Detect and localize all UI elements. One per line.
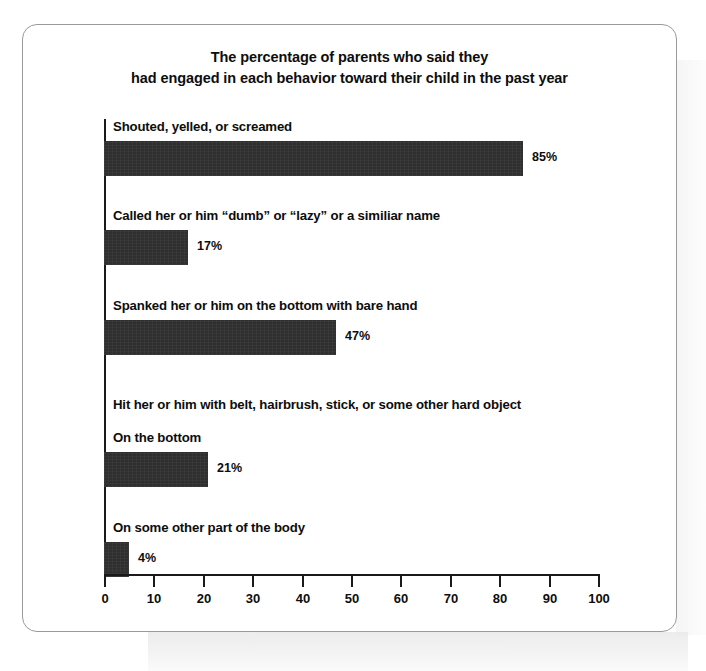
- bar-other-body-part[interactable]: [104, 542, 129, 577]
- bar-label-on-the-bottom: On the bottom: [113, 430, 201, 445]
- x-tick-20: [203, 574, 205, 587]
- bar-label-shouted: Shouted, yelled, or screamed: [113, 119, 292, 134]
- chart-title-line-2: had engaged in each behavior toward thei…: [23, 68, 676, 89]
- scan-shadow-bottom: [148, 632, 688, 671]
- x-tick-label-100: 100: [588, 591, 610, 606]
- x-tick-40: [302, 574, 304, 587]
- bar-value-spanked: 47%: [345, 329, 370, 343]
- bar-value-shouted: 85%: [532, 150, 557, 164]
- bar-value-called-names: 17%: [197, 239, 222, 253]
- chart-title: The percentage of parents who said they …: [23, 47, 676, 89]
- chart-card: The percentage of parents who said they …: [22, 24, 677, 632]
- bar-on-the-bottom[interactable]: [104, 452, 208, 487]
- bar-value-on-the-bottom: 21%: [217, 461, 242, 475]
- x-tick-label-10: 10: [147, 591, 161, 606]
- x-tick-label-60: 60: [394, 591, 408, 606]
- x-tick-50: [351, 574, 353, 587]
- x-tick-70: [450, 574, 452, 587]
- group-header-hit-hard-object: Hit her or him with belt, hairbrush, sti…: [113, 397, 521, 412]
- x-tick-0: [104, 574, 106, 587]
- bar-shouted[interactable]: [104, 141, 523, 176]
- x-tick-80: [499, 574, 501, 587]
- x-tick-label-20: 20: [197, 591, 211, 606]
- x-tick-label-30: 30: [246, 591, 260, 606]
- x-tick-100: [598, 574, 600, 587]
- bar-value-other-body-part: 4%: [138, 551, 156, 565]
- x-tick-label-80: 80: [493, 591, 507, 606]
- x-tick-label-50: 50: [345, 591, 359, 606]
- bar-spanked[interactable]: [104, 320, 336, 355]
- plot-area: Shouted, yelled, or screamed 85% Called …: [104, 119, 597, 574]
- x-tick-90: [549, 574, 551, 587]
- bar-label-spanked: Spanked her or him on the bottom with ba…: [113, 298, 417, 313]
- x-tick-label-40: 40: [296, 591, 310, 606]
- x-tick-30: [252, 574, 254, 587]
- x-tick-label-90: 90: [543, 591, 557, 606]
- bar-label-other-body-part: On some other part of the body: [113, 520, 305, 535]
- scan-shadow-right: [676, 60, 706, 635]
- bar-called-names[interactable]: [104, 230, 188, 265]
- x-tick-10: [153, 574, 155, 587]
- x-tick-label-0: 0: [101, 591, 108, 606]
- bar-label-called-names: Called her or him “dumb” or “lazy” or a …: [113, 208, 440, 223]
- chart-title-line-1: The percentage of parents who said they: [23, 47, 676, 68]
- x-tick-label-70: 70: [444, 591, 458, 606]
- x-tick-60: [400, 574, 402, 587]
